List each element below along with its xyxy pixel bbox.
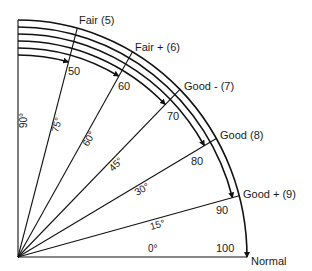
value-label: 70 <box>167 110 179 122</box>
radial-line-60deg <box>18 52 133 257</box>
angle-label: 0° <box>148 243 158 254</box>
grade-labels: Fair (5)Fair + (6)Good - (7)Good (8)Good… <box>79 14 296 267</box>
grade-label: Good - (7) <box>184 80 234 92</box>
grade-label: Fair + (6) <box>135 41 180 53</box>
value-label: 90 <box>216 204 228 216</box>
angle-label: 45° <box>107 155 125 173</box>
value-label: 60 <box>118 80 130 92</box>
arc-to-50 <box>18 55 68 62</box>
radial-line-75deg <box>18 28 77 257</box>
angle-label: 60° <box>80 129 97 148</box>
angle-label: 30° <box>133 181 152 198</box>
value-label: 80 <box>191 155 203 167</box>
angle-label: 90° <box>18 113 29 128</box>
radial-line-15deg <box>18 196 239 257</box>
grade-label: Normal <box>251 255 286 267</box>
grade-label: Fair (5) <box>79 14 114 26</box>
grade-label: Good + (9) <box>243 188 296 200</box>
angle-label: 75° <box>49 116 64 133</box>
radial-line-45deg <box>18 89 180 257</box>
value-label: 100 <box>216 242 234 254</box>
grading-quadrant-diagram: 90°75°60°45°30°15°0° 5060708090100 Fair … <box>0 0 312 271</box>
angle-labels: 90°75°60°45°30°15°0° <box>18 113 166 254</box>
value-label: 50 <box>68 65 80 77</box>
grade-label: Good (8) <box>220 129 263 141</box>
radial-lines <box>18 20 247 257</box>
